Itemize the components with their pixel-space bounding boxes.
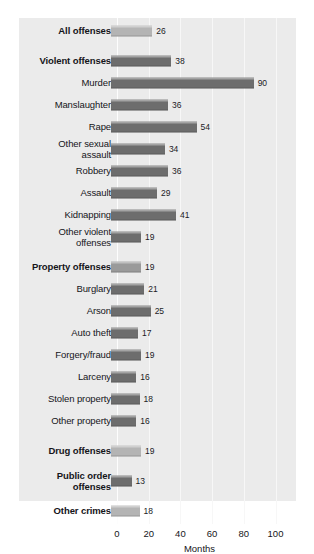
bar-row-label: Forgery/fraud <box>23 350 111 361</box>
bar-row-label: All offenses <box>23 26 111 37</box>
bar-value-label: 18 <box>144 394 153 404</box>
bar-row-label: Assault <box>23 188 111 199</box>
bar-track: 29 <box>111 182 296 204</box>
bar-track: 36 <box>111 94 296 116</box>
bar-row: Burglary21 <box>19 278 296 300</box>
bar-row: Kidnapping41 <box>19 204 296 226</box>
bar-value-label: 19 <box>145 350 154 360</box>
bar-track: 19 <box>111 256 296 278</box>
bar-row: Stolen property18 <box>19 388 296 410</box>
bar <box>111 100 168 111</box>
bar-row-label: Arson <box>23 306 111 317</box>
bar-row-label: Violent offenses <box>23 56 111 67</box>
bar-row-label: Stolen property <box>23 394 111 405</box>
bar <box>111 506 140 517</box>
x-tick-label: 80 <box>239 528 250 539</box>
bar-value-label: 34 <box>169 144 178 154</box>
bar-track: 38 <box>111 50 296 72</box>
bar-row: Forgery/fraud19 <box>19 344 296 366</box>
bar-row-label: Kidnapping <box>23 210 111 221</box>
bar-track: 21 <box>111 278 296 300</box>
bar-row: Other crimes18 <box>19 500 296 522</box>
bar-track: 41 <box>111 204 296 226</box>
bar-row: Rape54 <box>19 116 296 138</box>
bar-value-label: 36 <box>172 166 181 176</box>
bar-value-label: 19 <box>145 232 154 242</box>
bar <box>111 350 141 361</box>
bar-row-label: Burglary <box>23 284 111 295</box>
bar-track: 18 <box>111 500 296 522</box>
bar-track: 90 <box>111 72 296 94</box>
bar <box>111 372 136 383</box>
bar-row: Auto theft17 <box>19 322 296 344</box>
bar <box>111 56 171 67</box>
x-axis-title: Months <box>19 543 296 554</box>
x-tick-label: 100 <box>268 528 284 539</box>
bar-row: All offenses26 <box>19 20 296 42</box>
bar-row-label: Manslaughter <box>23 100 111 111</box>
bar <box>111 232 141 243</box>
bar-value-label: 16 <box>140 416 149 426</box>
bar-value-label: 19 <box>145 262 154 272</box>
bar-value-label: 16 <box>140 372 149 382</box>
bar-row: Manslaughter36 <box>19 94 296 116</box>
bar <box>111 416 136 427</box>
bar-row-label: Public order offenses <box>23 471 111 492</box>
bar <box>111 188 157 199</box>
bar-value-label: 29 <box>161 188 170 198</box>
bar-value-label: 90 <box>258 78 267 88</box>
bar-value-label: 36 <box>172 100 181 110</box>
bar-value-label: 19 <box>145 446 154 456</box>
bar-row: Other sexual assault34 <box>19 138 296 160</box>
bar-track: 13 <box>111 470 296 492</box>
bar-row: Larceny16 <box>19 366 296 388</box>
bar-track: 19 <box>111 344 296 366</box>
bar-row: Murder90 <box>19 72 296 94</box>
bar-track: 25 <box>111 300 296 322</box>
bar-row: Other property16 <box>19 410 296 432</box>
bar-track: 18 <box>111 388 296 410</box>
bar-track: 54 <box>111 116 296 138</box>
bar-row: Arson25 <box>19 300 296 322</box>
bar-row: Assault29 <box>19 182 296 204</box>
bar-row-label: Other crimes <box>23 506 111 517</box>
x-tick-label: 40 <box>175 528 186 539</box>
bar <box>111 210 176 221</box>
bar-value-label: 13 <box>136 476 145 486</box>
bar-row: Property offenses19 <box>19 256 296 278</box>
x-tick-label: 20 <box>143 528 154 539</box>
bar-track: 19 <box>111 226 296 248</box>
bar-track: 36 <box>111 160 296 182</box>
bar <box>111 144 165 155</box>
bar-value-label: 18 <box>144 506 153 516</box>
bar-row-label: Other property <box>23 416 111 427</box>
bar-row-label: Other sexual assault <box>23 139 111 160</box>
chart-panel: All offenses26Violent offenses38Murder90… <box>19 18 296 501</box>
bar <box>111 78 254 89</box>
bar-row-label: Larceny <box>23 372 111 383</box>
bar-track: 16 <box>111 410 296 432</box>
bar-track: 34 <box>111 138 296 160</box>
bar <box>111 122 197 133</box>
bar-row: Drug offenses19 <box>19 440 296 462</box>
bar-value-label: 54 <box>201 122 210 132</box>
bar-row: Other violent offenses19 <box>19 226 296 248</box>
bar <box>111 26 152 37</box>
bar-track: 19 <box>111 440 296 462</box>
x-axis-title-label: Months <box>184 543 215 554</box>
bar-value-label: 41 <box>180 210 189 220</box>
bar-value-label: 38 <box>175 56 184 66</box>
bar-track: 26 <box>111 20 296 42</box>
bar-row-label: Robbery <box>23 166 111 177</box>
bar <box>111 284 144 295</box>
bar-row-label: Murder <box>23 78 111 89</box>
bar-value-label: 17 <box>142 328 151 338</box>
bar-row-label: Rape <box>23 122 111 133</box>
bar-value-label: 21 <box>148 284 157 294</box>
bar-row: Robbery36 <box>19 160 296 182</box>
x-tick-label: 0 <box>114 528 119 539</box>
bar-row: Violent offenses38 <box>19 50 296 72</box>
bar <box>111 394 140 405</box>
bar <box>111 328 138 339</box>
bar-row: Public order offenses13 <box>19 470 296 492</box>
